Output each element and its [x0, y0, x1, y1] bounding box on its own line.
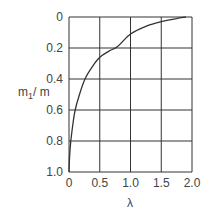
x-tick-label: 1.0	[122, 176, 139, 190]
x-tick-label: 0	[66, 176, 73, 190]
y-tick-label: 0.2	[46, 41, 63, 55]
x-tick-label: 2.0	[184, 176, 201, 190]
x-axis-label: λ	[127, 196, 133, 210]
grid	[69, 17, 192, 172]
y-tick-label: 1.0	[46, 165, 63, 179]
x-tick-label: 0.5	[91, 176, 108, 190]
y-tick-label: 0.4	[46, 72, 63, 86]
x-tick-labels: 00.51.01.52.0	[66, 176, 201, 190]
x-tick-label: 1.5	[153, 176, 170, 190]
data-curve	[69, 17, 186, 172]
y-tick-label: 0	[56, 10, 63, 24]
chart: 00.20.40.60.81.0 00.51.01.52.0 m1/ m λ	[0, 0, 212, 219]
y-tick-label: 0.8	[46, 134, 63, 148]
y-axis-label: m1/ m	[18, 85, 50, 101]
y-tick-label: 0.6	[46, 103, 63, 117]
